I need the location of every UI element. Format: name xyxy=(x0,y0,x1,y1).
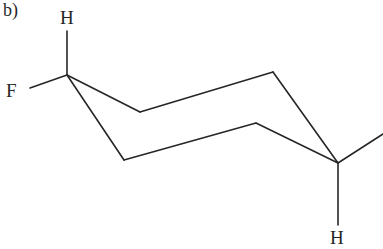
ring-bond-c1-c2 xyxy=(67,75,140,112)
atom-label-h-axial-bottom: H xyxy=(330,228,344,247)
substituent-bonds xyxy=(30,31,383,225)
chair-conformation-drawing xyxy=(0,0,383,249)
ring-bond-c2-c3 xyxy=(140,72,273,112)
ring-bond-c3-c4 xyxy=(273,72,338,163)
ring-bond-c6-c1 xyxy=(67,75,124,160)
ring-bond-c4-c5 xyxy=(256,123,338,163)
bond-c4-equatorial-icon xyxy=(338,134,383,163)
chemical-structure-figure: b) H F H xyxy=(0,0,383,249)
atom-label-f-equatorial: F xyxy=(6,81,17,100)
ring-skeleton xyxy=(67,72,338,163)
ring-bond-c5-c6 xyxy=(124,123,256,160)
bond-c1-f-equatorial-icon xyxy=(30,75,67,88)
atom-label-h-axial-top: H xyxy=(60,8,74,27)
panel-label: b) xyxy=(3,1,18,19)
